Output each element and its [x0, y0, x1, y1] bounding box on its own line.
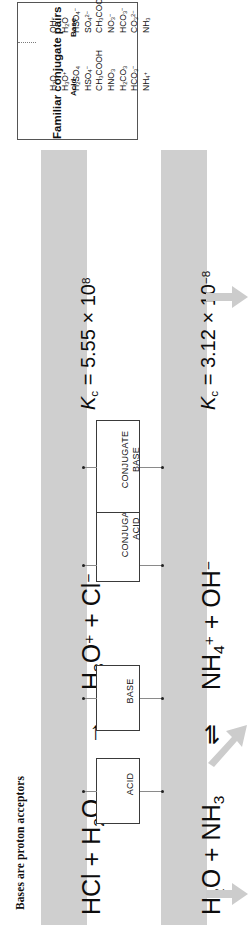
- table-cell-acid: H2SO4: [71, 66, 81, 91]
- table-cell-acid: HCO3−: [129, 66, 139, 91]
- table-cell-acid: NH4+: [141, 72, 151, 91]
- table-cell-base: H2O: [60, 17, 70, 33]
- table-cell-base: HSO4−: [71, 8, 81, 33]
- leader-dot-base-left: [82, 697, 85, 700]
- flow-arrow-diagonal: [206, 707, 249, 767]
- leader-dot-cacid-left: [82, 564, 85, 567]
- section-title: Bases are proton acceptors: [14, 776, 26, 910]
- table-cell-acid: HSO4−: [83, 66, 93, 91]
- table-leader-line: [18, 42, 36, 44]
- leader-acid-left: [84, 791, 97, 792]
- leader-dot-cbase-right: [161, 466, 164, 469]
- leader-cacid-right: [140, 565, 162, 566]
- table-cell-base: CH3COO−: [94, 0, 104, 33]
- conjugate-pairs-table: Familiar conjugate pairs Acid Base H2OOH…: [17, 2, 138, 140]
- table-cell-base: SO42−: [83, 11, 93, 33]
- leader-cbase-left: [84, 467, 97, 468]
- leader-dot-cbase-left: [82, 466, 85, 469]
- flow-arrow-top: [206, 283, 249, 311]
- table-cell-base: NH3: [141, 18, 151, 34]
- leader-base-right: [140, 698, 162, 699]
- reaction-ammonia-products: NH4+ + OH−: [197, 561, 228, 690]
- leader-acid-right: [140, 791, 162, 792]
- table-cell-base: CO32−: [129, 10, 139, 33]
- leader-dot-acid-right: [161, 790, 164, 793]
- table-cell-base: NO3−: [106, 14, 116, 33]
- callout-conjugate-base-line2: BASE: [131, 413, 142, 506]
- table-cell-acid: HNO3: [106, 69, 116, 91]
- leader-dot-cacid-right: [161, 564, 164, 567]
- leader-dot-base-right: [161, 697, 164, 700]
- callout-conjugate-base-line1: CONJUGATE: [120, 413, 131, 506]
- reaction-hcl-kc: Kc = 5.55 × 108: [77, 278, 100, 410]
- callout-base-label: BASE: [125, 658, 136, 724]
- leader-cacid-left: [84, 565, 97, 566]
- leader-cbase-right: [140, 467, 162, 468]
- table-cell-acid: H3O+: [60, 72, 70, 91]
- callout-acid-label: ACID: [125, 751, 136, 817]
- table-cell-base: OH−: [48, 17, 58, 33]
- callout-base: BASE: [96, 665, 140, 731]
- leader-dot-acid-left: [82, 790, 85, 793]
- table-cell-base: HCO3−: [118, 8, 128, 33]
- callout-acid: ACID: [96, 758, 140, 824]
- callout-conjugate-base: CONJUGATE BASE: [96, 420, 140, 513]
- table-cell-acid: CH3COOH: [94, 50, 104, 91]
- table-cell-acid: H2O: [48, 75, 58, 91]
- flow-arrow-bottom: [206, 880, 249, 908]
- leader-base-left: [84, 698, 97, 699]
- table-cell-acid: H2CO3: [118, 66, 128, 91]
